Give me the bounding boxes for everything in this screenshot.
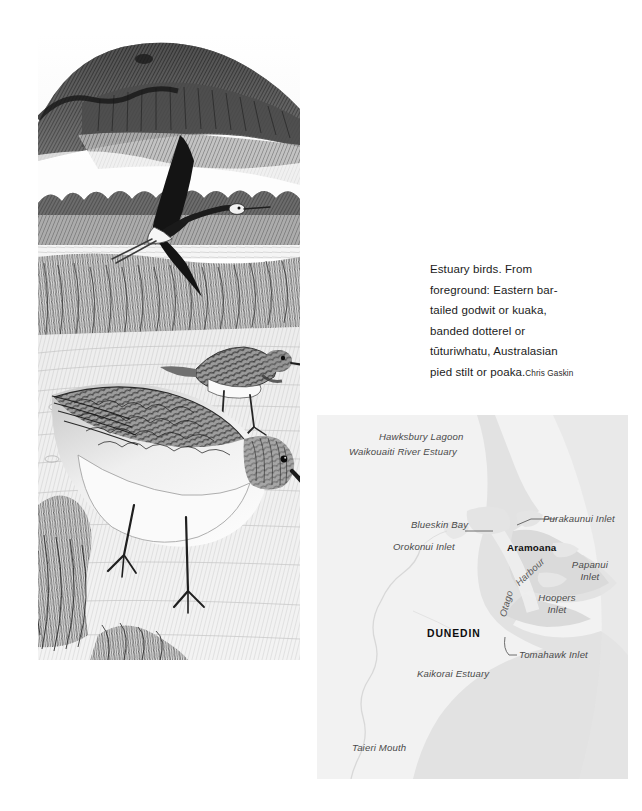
map-label-tomahawk-inlet: Tomahawk Inlet (519, 649, 588, 660)
caption-credit: Chris Gaskin (525, 369, 573, 378)
map-label-hawksbury-lagoon: Hawksbury Lagoon (379, 431, 464, 442)
map-label-dunedin: DUNEDIN (427, 628, 481, 639)
saltmarsh-grass (38, 253, 300, 341)
otago-estuaries-map: Hawksbury Lagoon Waikouaiti River Estuar… (317, 415, 628, 779)
map-label-kaikorai-estuary: Kaikorai Estuary (417, 668, 489, 679)
map-label-orokonui-inlet: Orokonui Inlet (393, 541, 455, 552)
caption-text: Estuary birds. From foreground: Eastern … (430, 263, 558, 378)
map-label-aramoana: Aramoana (507, 542, 557, 553)
map-label-blueskin-bay: Blueskin Bay (411, 519, 468, 530)
illustration-caption: Estuary birds. From foreground: Eastern … (430, 259, 580, 382)
papanui-line-2: Inlet (581, 571, 600, 582)
map-label-hoopers-inlet: Hoopers Inlet (529, 592, 585, 615)
map-label-papanui-inlet: Papanui Inlet (563, 559, 617, 582)
map-label-waikouaiti-river-estuary: Waikouaiti River Estuary (349, 446, 457, 457)
hoopers-line-1: Hoopers (538, 592, 575, 603)
illustration-canvas (38, 35, 300, 660)
papanui-line-1: Papanui (572, 559, 608, 570)
map-label-taieri-mouth: Taieri Mouth (352, 742, 406, 753)
estuary-birds-illustration (38, 35, 300, 660)
hoopers-line-2: Inlet (548, 604, 567, 615)
map-label-purakaunui-inlet: Purakaunui Inlet (543, 513, 615, 524)
